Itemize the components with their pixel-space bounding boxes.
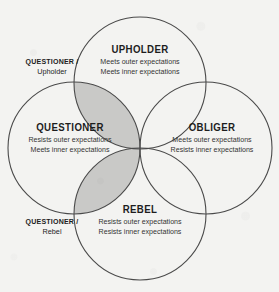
- label-questioner-upholder: QUESTIONER / Upholder: [9, 57, 95, 77]
- quadrant-upholder-title: UPHOLDER: [78, 43, 201, 55]
- label-questioner-upholder-primary: QUESTIONER /: [12, 57, 92, 67]
- label-questioner-rebel: QUESTIONER / Rebel: [9, 217, 95, 237]
- quadrant-questioner: QUESTIONER Resists outer expectations Me…: [5, 121, 135, 154]
- label-questioner-rebel-primary: QUESTIONER /: [12, 217, 92, 227]
- quadrant-obliger-title: OBLIGER: [152, 121, 272, 133]
- diagram-text-layer: UPHOLDER Meets outer expectations Meets …: [0, 0, 279, 292]
- label-questioner-upholder-secondary: Upholder: [11, 67, 94, 77]
- quadrant-questioner-title: QUESTIONER: [10, 121, 130, 133]
- quadrant-questioner-line-2: Meets inner expectations: [8, 145, 133, 155]
- quadrant-rebel-title: REBEL: [78, 203, 201, 215]
- label-questioner-rebel-secondary: Rebel: [11, 227, 94, 237]
- quadrant-questioner-line-1: Resists outer expectations: [8, 135, 133, 145]
- quadrant-obliger-line-2: Resists inner expectations: [150, 145, 275, 155]
- quadrant-obliger-line-1: Meets outer expectations: [150, 135, 275, 145]
- venn-diagram: UPHOLDER Meets outer expectations Meets …: [0, 0, 279, 292]
- quadrant-obliger: OBLIGER Meets outer expectations Resists…: [147, 121, 277, 154]
